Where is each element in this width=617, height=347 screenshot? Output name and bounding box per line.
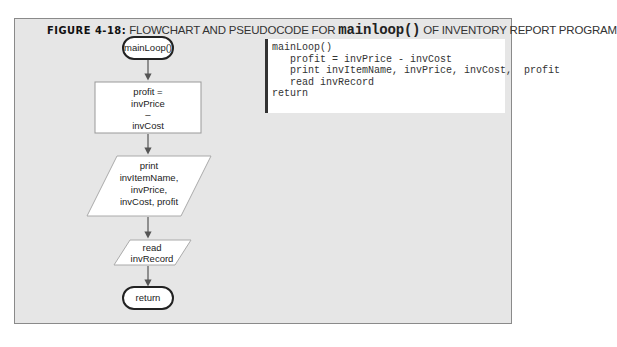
end-label: return xyxy=(136,292,161,303)
caption-suffix: OF INVENTORY REPORT PROGRAM xyxy=(423,24,617,36)
output-line-2: invItemName, xyxy=(120,172,179,183)
output-line-4: invCost, profit xyxy=(120,196,178,207)
process-line-3: – xyxy=(145,109,151,120)
start-terminal: mainLoop() xyxy=(123,37,173,59)
start-label: mainLoop() xyxy=(124,42,172,53)
process-line-4: invCost xyxy=(132,120,164,131)
pseudocode-line: profit = invPrice - invCost xyxy=(272,54,505,66)
pseudocode-line: mainLoop() xyxy=(272,42,505,54)
flowchart: mainLoop() profit = invPrice – invCost p… xyxy=(15,19,265,323)
process-line-2: invPrice xyxy=(131,98,165,109)
caption-code: mainloop() xyxy=(338,22,420,38)
pseudocode-line: read invRecord xyxy=(272,77,505,89)
process-line-1: profit = xyxy=(133,86,163,97)
output-line-1: print xyxy=(140,160,159,171)
figure-frame: FIGURE 4-18: FLOWCHART AND PSEUDOCODE FO… xyxy=(14,18,512,324)
output-line-3: invPrice, xyxy=(131,184,167,195)
input-line-1: read xyxy=(142,242,161,253)
output-parallelogram: print invItemName, invPrice, invCost, pr… xyxy=(87,156,211,216)
end-terminal: return xyxy=(123,287,173,309)
input-line-2: invRecord xyxy=(131,253,174,264)
pseudocode-line: print invItemName, invPrice, invCost, pr… xyxy=(272,65,505,77)
process-box: profit = invPrice – invCost xyxy=(95,82,201,133)
pseudocode-box: mainLoop() profit = invPrice - invCost p… xyxy=(265,39,505,113)
input-parallelogram: read invRecord xyxy=(114,240,191,265)
pseudocode-line: return xyxy=(272,88,505,100)
